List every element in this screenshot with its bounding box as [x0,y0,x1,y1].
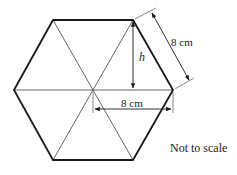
height-label: h [139,50,145,64]
side-length-label: 8 cm [171,36,193,48]
radius-length-label: 8 cm [121,97,143,109]
inner-diagonals [14,20,173,160]
hexagon-diagram: h 8 cm 8 cm Not to scale [0,0,237,175]
not-to-scale-note: Not to scale [170,141,227,155]
